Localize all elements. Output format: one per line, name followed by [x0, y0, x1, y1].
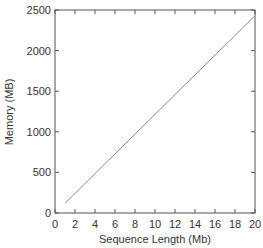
x-tick-label: 0 — [52, 218, 58, 230]
y-tick-label: 500 — [33, 166, 51, 178]
y-axis-ticks: 05001000150020002500 — [27, 4, 255, 219]
x-axis-label: Sequence Length (Mb) — [99, 233, 211, 245]
x-tick-label: 14 — [189, 218, 201, 230]
x-tick-label: 10 — [149, 218, 161, 230]
y-axis-label: Memory (MB) — [3, 79, 15, 146]
plot-frame — [55, 10, 255, 213]
data-series — [65, 16, 255, 204]
x-tick-label: 6 — [112, 218, 118, 230]
x-tick-label: 4 — [92, 218, 98, 230]
x-tick-label: 2 — [72, 218, 78, 230]
y-tick-label: 2000 — [27, 45, 51, 57]
plot-area — [55, 10, 255, 213]
x-tick-label: 12 — [169, 218, 181, 230]
line-chart: 02468101214161820 05001000150020002500 S… — [0, 0, 263, 248]
x-tick-label: 20 — [249, 218, 261, 230]
x-tick-label: 8 — [132, 218, 138, 230]
x-tick-label: 16 — [209, 218, 221, 230]
y-tick-label: 2500 — [27, 4, 51, 16]
y-tick-label: 1500 — [27, 85, 51, 97]
y-tick-label: 1000 — [27, 126, 51, 138]
x-axis-ticks: 02468101214161820 — [52, 10, 261, 230]
x-tick-label: 18 — [229, 218, 241, 230]
series-line — [65, 16, 255, 204]
y-tick-label: 0 — [45, 207, 51, 219]
